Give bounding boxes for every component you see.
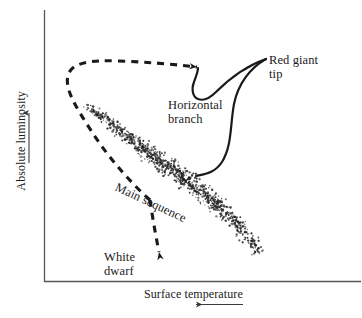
annotation-white-dwarf: White dwarf (104, 250, 135, 279)
hr-diagram-figure: Absolute luminosity Surface temperature … (0, 0, 362, 318)
hr-diagram-canvas (0, 0, 362, 318)
y-axis-label: Absolute luminosity (15, 81, 29, 201)
axis-lines (44, 10, 361, 282)
x-axis-label: Surface temperature (144, 288, 243, 302)
annotation-horizontal-branch: Horizontal branch (168, 98, 222, 127)
annotation-red-giant-tip: Red giant tip (269, 53, 318, 82)
leader-red-giant-tip-to-horizontal-branch (193, 59, 266, 100)
evolutionary-track-dashed (67, 61, 197, 200)
